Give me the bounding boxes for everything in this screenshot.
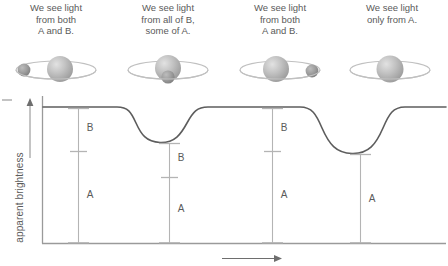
binary-star-b-left-icon: [0, 50, 112, 90]
phase-panel-2: We see light from all of B, some of A.: [112, 0, 224, 92]
bar-2-segment-b-label: B: [173, 152, 189, 163]
binary-star-b-hidden-icon: [336, 50, 448, 90]
phase-panel-3: We see light from both A and B.: [224, 0, 336, 92]
bar-4-segment-a-label: A: [364, 193, 380, 204]
light-curve-path: [43, 107, 446, 154]
phase-panel-4: We see light only from A.: [336, 0, 448, 92]
light-curve-svg: [0, 88, 448, 266]
phase-caption-4: We see light only from A.: [336, 2, 448, 25]
y-axis-label: apparent brightness: [14, 128, 25, 266]
phase-caption-1: We see light from both A and B.: [0, 2, 112, 37]
phase-caption-3: We see light from both A and B.: [224, 2, 336, 37]
bar-2-segment-a-label: A: [173, 203, 189, 214]
phase-panels: We see light from both A and B.: [0, 0, 448, 92]
bar-3-segment-b-label: B: [276, 122, 292, 133]
binary-star-b-right-icon: [224, 50, 336, 90]
bar-1-segment-a-label: A: [82, 189, 98, 200]
bar-3-segment-a-label: A: [276, 189, 292, 200]
y-axis-arrow-icon: [27, 98, 34, 158]
light-curve-plot: apparent brightness time B A B A B A A: [0, 88, 448, 266]
phase-caption-2: We see light from all of B, some of A.: [112, 2, 224, 37]
binary-star-b-in-front-icon: [112, 50, 224, 90]
phase-panel-1: We see light from both A and B.: [0, 0, 112, 92]
x-axis-arrow-icon: [222, 255, 282, 262]
bar-1-segment-b-label: B: [82, 122, 98, 133]
figure-root: We see light from both A and B.: [0, 0, 448, 266]
